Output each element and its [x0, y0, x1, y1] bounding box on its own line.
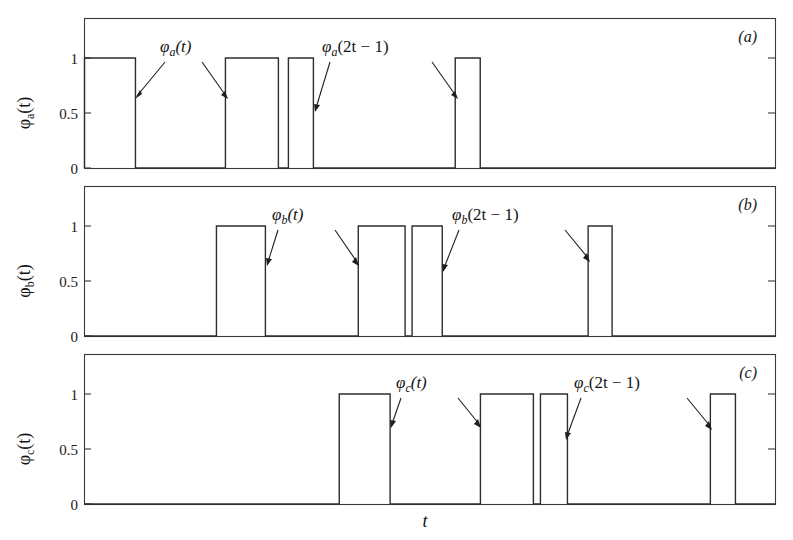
panel-c-annotation-2: φc(2t − 1)	[574, 373, 640, 395]
panel-c-ylabel: φc(t)	[14, 433, 37, 466]
panel-b-annotation-2: φb(2t − 1)	[452, 205, 519, 227]
panel-a-annotation-2: φa(2t − 1)	[322, 37, 389, 59]
panel-b-arrow-2a	[442, 230, 459, 272]
panel-b-ylabel: φb(t)	[14, 264, 37, 297]
panel-c-frame	[85, 355, 776, 505]
figure-root: 1 0.5 0 φa(t) (a) φa(t)	[0, 0, 793, 540]
panel-b: 1 0.5 0 φb(t) (b) φb(t) φb(	[14, 187, 776, 346]
panel-c-arrow-2b	[687, 398, 712, 430]
panel-c-ylabel-arg: (t)	[14, 433, 35, 450]
svg-text:φa(t): φa(t)	[14, 97, 37, 130]
panel-b-arrow-1a	[266, 230, 278, 266]
panel-a-ytick-label-05: 0.5	[59, 106, 78, 122]
panel-c-ylabel-phi: φ	[14, 455, 34, 465]
panel-c-label: (c)	[739, 364, 757, 382]
svg-text:φb(t): φb(t)	[14, 264, 37, 297]
panel-a-signal	[85, 58, 776, 168]
panel-b-ytick-label-05: 0.5	[59, 274, 78, 290]
panel-a-arrow-1b	[202, 62, 228, 99]
panel-b-ylabel-phi: φ	[14, 287, 34, 297]
panel-b-frame	[85, 187, 776, 337]
panel-c-arrow-1b	[458, 398, 481, 428]
panel-a-annotation-1: φa(t)	[160, 37, 192, 59]
panel-c: 1 0.5 0 φc(t) (c) φc(t) φc(	[14, 355, 776, 514]
panel-b-label: (b)	[738, 196, 757, 214]
panel-b-arrow-2b	[565, 230, 590, 262]
panel-a-arrow-2a	[314, 62, 330, 112]
panel-a-arrow-2b	[432, 62, 458, 99]
panel-c-arrow-1a	[390, 398, 401, 428]
panel-c-signal	[85, 394, 776, 504]
panel-b-annotation-1: φb(t)	[272, 205, 304, 227]
panel-b-ylabel-arg: (t)	[14, 264, 35, 281]
x-axis-label: t	[422, 511, 428, 531]
panel-b-arrow-1b	[335, 230, 359, 266]
panel-b-ytick-label-1: 1	[71, 219, 79, 235]
panel-b-signal	[85, 226, 776, 336]
svg-text:φc(t): φc(t)	[14, 433, 37, 466]
panel-a-ylabel-arg: (t)	[14, 97, 35, 114]
panel-a-ylabel-phi: φ	[14, 119, 34, 129]
panel-a: 1 0.5 0 φa(t) (a) φa(t)	[14, 19, 776, 178]
panel-c-ytick-label-05: 0.5	[59, 442, 78, 458]
panel-a-ytick-label-0: 0	[71, 161, 79, 177]
panel-a-ytick-label-1: 1	[71, 51, 79, 67]
panel-a-arrow-1a	[135, 62, 165, 99]
panel-a-ylabel: φa(t)	[14, 97, 37, 130]
panel-c-annotation-1: φc(t)	[396, 373, 427, 395]
panel-b-ytick-label-0: 0	[71, 329, 79, 345]
multi-panel-step-function-figure: 1 0.5 0 φa(t) (a) φa(t)	[0, 0, 793, 540]
panel-c-ytick-label-1: 1	[71, 387, 79, 403]
panel-a-label: (a)	[738, 28, 757, 46]
panel-c-ytick-label-0: 0	[71, 497, 79, 513]
